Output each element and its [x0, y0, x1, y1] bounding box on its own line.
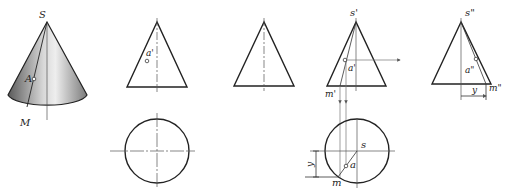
dimension-label: y [305, 161, 315, 168]
point-marker [343, 58, 347, 62]
center-label: s [361, 139, 366, 150]
base-point-label: m" [489, 83, 502, 93]
point-a-marker [32, 77, 36, 81]
generatrix-front [340, 22, 356, 86]
point-label: a' [348, 63, 356, 73]
view1-front-triangle: a' [127, 18, 187, 92]
apex-label: s' [350, 7, 358, 18]
apex-label: s" [465, 7, 475, 18]
dimension-label: y [471, 85, 478, 95]
view3-side-triangle: s" a" m" y [432, 7, 502, 100]
apex-label: S [39, 9, 46, 20]
base-point-label: m' [325, 89, 336, 99]
cone-body [8, 22, 87, 105]
view1-top-circle [110, 113, 195, 188]
point-label: a' [146, 48, 154, 58]
cone-projection-diagram: S A M a' s' a' m' [0, 0, 509, 196]
view2-front-triangle [234, 18, 294, 91]
view3-front-triangle: s' a' m' [325, 7, 400, 103]
point-marker [474, 57, 478, 61]
point-label: a [350, 159, 356, 170]
point-marker [145, 59, 149, 63]
view3-top-circle: s a m y [305, 103, 395, 188]
point-label: A [24, 73, 32, 84]
point-label: a" [465, 65, 475, 75]
base-point-label: m [332, 177, 341, 188]
base-point-label: M [19, 117, 31, 128]
point-marker [344, 164, 348, 168]
pictorial-cone: S A M [8, 9, 87, 128]
